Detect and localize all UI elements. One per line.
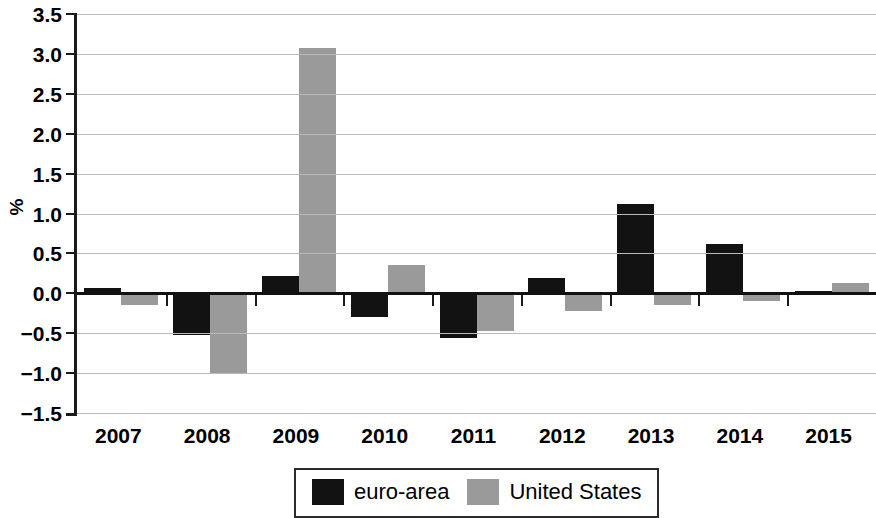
x-tick-mark: [610, 294, 612, 306]
chart-legend: euro-area United States: [294, 468, 659, 518]
bar-euro-area-2009: [262, 276, 299, 294]
gridline: [77, 14, 876, 15]
y-tick-mark: [66, 292, 77, 294]
y-tick-mark: [66, 413, 77, 416]
y-tick-mark: [66, 252, 77, 254]
y-tick-mark: [66, 93, 77, 95]
legend-swatch-united-states: [467, 479, 499, 505]
bar-united-states-2010: [388, 265, 425, 294]
legend-item-euro-area: euro-area: [312, 479, 449, 505]
y-tick-label: 0.5: [4, 243, 62, 264]
x-axis-tick-labels: 200720082009201020112012201320142015: [74, 424, 873, 458]
y-tick-mark: [66, 13, 77, 15]
x-tick-label-2013: 2013: [607, 424, 696, 448]
legend-label-euro-area: euro-area: [354, 481, 449, 503]
bar-euro-area-2010: [351, 293, 388, 317]
y-tick-mark: [66, 173, 77, 175]
bar-euro-area-2008: [173, 293, 210, 334]
y-tick-mark: [66, 133, 77, 135]
gridline: [77, 333, 876, 334]
y-axis-tick-labels: 3.53.02.52.01.51.00.50.0−0.5−1.0−1.5: [0, 0, 62, 430]
y-tick-label: 2.5: [4, 83, 62, 104]
x-tick-mark: [698, 294, 700, 306]
y-tick-label: 2.0: [4, 123, 62, 144]
x-tick-mark: [255, 294, 257, 306]
gridline: [77, 94, 876, 95]
y-tick-label: 3.5: [4, 4, 62, 25]
x-tick-mark: [432, 294, 434, 306]
gridline: [77, 174, 876, 175]
gridline: [77, 54, 876, 55]
legend-item-united-states: United States: [467, 479, 641, 505]
bar-euro-area-2011: [440, 293, 477, 338]
legend-swatch-euro-area: [312, 479, 344, 505]
y-tick-label: −0.5: [4, 323, 62, 344]
y-tick-label: −1.5: [4, 403, 62, 424]
y-tick-mark: [66, 53, 77, 55]
x-tick-label-2007: 2007: [74, 424, 163, 448]
gridline: [77, 134, 876, 135]
gridline: [77, 373, 876, 374]
x-tick-mark: [521, 294, 523, 306]
bar-united-states-2012: [565, 293, 602, 311]
y-tick-label: 1.0: [4, 203, 62, 224]
gridline: [77, 413, 876, 414]
x-tick-mark: [166, 294, 168, 306]
x-tick-label-2011: 2011: [429, 424, 518, 448]
y-tick-mark: [66, 213, 77, 215]
x-tick-label-2015: 2015: [784, 424, 873, 448]
x-tick-mark: [787, 294, 789, 306]
gridline: [77, 253, 876, 254]
y-tick-mark: [66, 332, 77, 334]
gridline: [77, 214, 876, 215]
legend-label-united-states: United States: [509, 481, 641, 503]
plot-area: [74, 14, 876, 413]
x-tick-label-2014: 2014: [695, 424, 784, 448]
x-tick-label-2010: 2010: [340, 424, 429, 448]
x-tick-label-2008: 2008: [163, 424, 252, 448]
bar-euro-area-2012: [528, 278, 565, 293]
bar-united-states-2009: [299, 48, 336, 293]
x-tick-label-2012: 2012: [518, 424, 607, 448]
y-tick-label: 3.0: [4, 43, 62, 64]
y-tick-mark: [66, 372, 77, 374]
y-tick-label: 1.5: [4, 163, 62, 184]
zero-axis-line: [77, 292, 876, 295]
y-tick-label: 0.0: [4, 283, 62, 304]
bar-united-states-2011: [477, 293, 514, 331]
bar-euro-area-2013: [617, 204, 654, 293]
x-tick-mark: [343, 294, 345, 306]
x-tick-label-2009: 2009: [252, 424, 341, 448]
y-tick-label: −1.0: [4, 363, 62, 384]
bar-euro-area-2014: [706, 244, 743, 293]
